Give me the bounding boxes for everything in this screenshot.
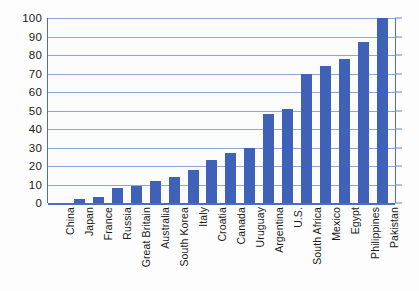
bar (320, 66, 331, 203)
y-axis-tick-mark (395, 110, 402, 111)
bar (377, 18, 388, 203)
y-axis-tick-label: 100 (22, 12, 42, 24)
y-axis-tick-label: 20 (29, 160, 42, 172)
y-axis-tick-label: 10 (29, 179, 42, 191)
bar (358, 42, 369, 203)
y-axis-tick-mark (395, 55, 402, 56)
y-axis-tick-mark (395, 18, 402, 19)
x-label-slot: Argentina (260, 205, 279, 289)
bar-slot (184, 18, 203, 203)
bar-slot (259, 18, 278, 203)
y-axis-tick-mark (395, 203, 402, 204)
bar (282, 109, 293, 203)
x-label-slot: France (88, 205, 107, 289)
y-axis-tick-label: 80 (29, 49, 42, 61)
bar-slot (108, 18, 127, 203)
x-label-slot: Mexico (317, 205, 336, 289)
bar (339, 59, 350, 203)
y-axis-tick-label: 60 (29, 86, 42, 98)
y-axis-tick-mark (395, 147, 402, 148)
bar (93, 197, 104, 203)
x-label-slot: Russia (107, 205, 126, 289)
x-label-slot: Uruguay (241, 205, 260, 289)
y-axis-tick-label: 50 (29, 105, 42, 117)
bar (188, 170, 199, 203)
bar-slot (335, 18, 354, 203)
bar (74, 199, 85, 203)
bar-slot (221, 18, 240, 203)
x-label-slot: Egypt (336, 205, 355, 289)
bar-slot (354, 18, 373, 203)
x-label-slot: China (50, 205, 69, 289)
bar-slot (89, 18, 108, 203)
bar-slot (316, 18, 335, 203)
bars-group (48, 18, 395, 203)
bar (206, 160, 217, 203)
bar-slot (240, 18, 259, 203)
x-label-slot: Philippines (355, 205, 374, 289)
bar (131, 186, 142, 203)
bar-slot (278, 18, 297, 203)
x-axis-category-label: Pakistan (388, 207, 400, 248)
bar-slot (127, 18, 146, 203)
bar-slot (373, 18, 392, 203)
y-axis-tick-mark (395, 92, 402, 93)
y-axis-tick-mark (395, 36, 402, 37)
x-label-slot: South Korea (164, 205, 183, 289)
bar (244, 148, 255, 204)
plot-area: 1009080706050403020100 (47, 18, 396, 203)
y-axis-tick-label: 90 (29, 31, 42, 43)
y-axis-tick-mark (395, 73, 402, 74)
x-label-slot: Canada (222, 205, 241, 289)
y-axis-tick-mark (395, 166, 402, 167)
y-axis-tick-label: 0 (35, 197, 42, 209)
y-axis-tick-label: 70 (29, 68, 42, 80)
bar-slot (203, 18, 222, 203)
bar (301, 74, 312, 204)
y-axis-tick-label: 40 (29, 123, 42, 135)
x-label-slot: South Africa (298, 205, 317, 289)
bar (225, 153, 236, 203)
bar-slot (70, 18, 89, 203)
bar (150, 181, 161, 203)
bar (169, 177, 180, 203)
bar (112, 188, 123, 203)
y-axis-tick-label: 30 (29, 142, 42, 154)
bar-slot (165, 18, 184, 203)
bar-slot (297, 18, 316, 203)
bar-slot (146, 18, 165, 203)
y-axis-tick-mark (395, 129, 402, 130)
x-axis-labels: ChinaJapanFranceRussiaGreat BritainAustr… (47, 205, 396, 289)
x-label-slot: Pakistan (374, 205, 393, 289)
bar-chart: 1009080706050403020100 ChinaJapanFranceR… (0, 0, 419, 291)
x-label-slot: Italy (183, 205, 202, 289)
x-label-slot: U.S. (279, 205, 298, 289)
y-axis-tick-mark (395, 184, 402, 185)
x-label-slot: Japan (69, 205, 88, 289)
bar-slot (51, 18, 70, 203)
x-label-slot: Australia (145, 205, 164, 289)
bar (263, 114, 274, 203)
x-label-slot: Croatia (203, 205, 222, 289)
x-label-slot: Great Britain (126, 205, 145, 289)
